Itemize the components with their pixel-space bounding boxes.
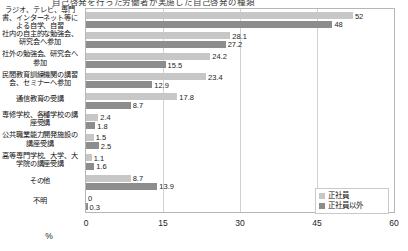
- bar-正社員: [86, 134, 94, 141]
- bar-value-label: 23.4: [208, 74, 223, 81]
- bar-value-label: 8.7: [133, 175, 143, 182]
- bar-正社員以外: [86, 203, 88, 210]
- category-label: 社内の自主的な勉強会、研究会へ参加: [0, 30, 81, 47]
- bar-value-label: 8.7: [133, 102, 143, 109]
- category-label: 高等専門学校、大学、大学院の講座受講: [0, 152, 81, 169]
- bar-正社員以外: [86, 102, 131, 109]
- bar-row: 28.127.2: [86, 29, 394, 49]
- bar-row: 23.412.9: [86, 70, 394, 90]
- bar-value-label: 1.8: [97, 123, 107, 130]
- bar-正社員: [86, 73, 206, 80]
- legend-item-seishain: 正社員: [319, 192, 385, 201]
- chart-screenshot: 自己啓発を行った労働者が実施した自己啓発の種類 ラジオ、テレビ、専門書、インター…: [0, 0, 408, 251]
- bar-row: 1.11.6: [86, 151, 394, 171]
- axis-title: %: [0, 231, 408, 241]
- bar-正社員: [86, 53, 210, 60]
- bar-正社員以外: [86, 122, 95, 129]
- legend-label: 正社員: [328, 192, 349, 200]
- legend-swatch-icon: [319, 193, 325, 199]
- category-axis-labels: ラジオ、テレビ、専門書、インターネット等による自学、自習社内の自主的な勉強会、研…: [0, 8, 83, 213]
- bar-value-label: 27.2: [228, 41, 243, 48]
- bar-正社員以外: [86, 21, 332, 28]
- bar-row: 1.52.5: [86, 131, 394, 151]
- bar-row: 17.88.7: [86, 90, 394, 110]
- bar-value-label: 12.9: [154, 82, 169, 89]
- bar-正社員: [86, 154, 92, 161]
- axis-title-label: %: [45, 231, 53, 241]
- category-label: 通信教育の受講: [0, 95, 81, 103]
- bar-正社員: [86, 93, 177, 100]
- bar-value-label: 2.5: [101, 143, 111, 150]
- bar-value-label: 0.3: [90, 204, 100, 211]
- bar-正社員: [86, 32, 230, 39]
- bar-value-label: 28.1: [232, 33, 247, 40]
- category-label: 民間教育訓練機関の講習会、セミナーへ参加: [0, 71, 81, 88]
- bar-正社員以外: [86, 81, 152, 88]
- bar-正社員以外: [86, 183, 157, 190]
- axis-tick: 30: [235, 218, 244, 228]
- bar-value-label: 0: [88, 195, 92, 202]
- bar-value-label: 24.2: [212, 53, 227, 60]
- category-label: 不明: [0, 197, 81, 205]
- bar-正社員: [86, 114, 98, 121]
- page-title: 自己啓発を行った労働者が実施した自己啓発の種類: [52, 0, 254, 7]
- axis-tick: 15: [158, 218, 167, 228]
- bar-正社員: [86, 175, 131, 182]
- category-label: 社外の勉強会、研究会へ参加: [0, 50, 81, 67]
- bar-正社員以外: [86, 61, 166, 68]
- axis-tick: 60: [389, 218, 398, 228]
- bar-rows: 524828.127.224.215.523.412.917.88.72.41.…: [86, 9, 394, 212]
- bar-row: 5248: [86, 9, 394, 29]
- axis-tick: 0: [84, 218, 89, 228]
- bar-value-label: 1.6: [96, 163, 106, 170]
- legend: 正社員 正社員以外: [315, 188, 389, 214]
- bar-value-label: 15.5: [168, 62, 183, 69]
- plot-area: 524828.127.224.215.523.412.917.88.72.41.…: [85, 8, 395, 213]
- value-axis: 015304560: [0, 214, 408, 228]
- bar-value-label: 17.8: [179, 94, 194, 101]
- bar-value-label: 1.5: [96, 134, 106, 141]
- bar-value-label: 52: [355, 13, 363, 20]
- bar-正社員以外: [86, 41, 226, 48]
- legend-swatch-icon: [319, 203, 325, 209]
- bar-正社員以外: [86, 163, 94, 170]
- category-label: その他: [0, 177, 81, 185]
- legend-item-seishain-igai: 正社員以外: [319, 201, 385, 210]
- category-label: 専修学校、各種学校の講座受講: [0, 111, 81, 128]
- legend-label: 正社員以外: [328, 202, 363, 210]
- category-label: 公共職業能力開発施設の講座受講: [0, 131, 81, 148]
- bar-row: 2.41.8: [86, 111, 394, 131]
- bar-正社員: [86, 12, 353, 19]
- axis-tick: 45: [312, 218, 321, 228]
- bar-value-label: 48: [334, 21, 342, 28]
- bar-value-label: 2.4: [100, 114, 110, 121]
- bar-row: 24.215.5: [86, 50, 394, 70]
- category-label: ラジオ、テレビ、専門書、インターネット等による自学、自習: [0, 6, 81, 31]
- bar-value-label: 1.1: [94, 155, 104, 162]
- bar-正社員以外: [86, 142, 99, 149]
- bar-value-label: 13.9: [159, 183, 174, 190]
